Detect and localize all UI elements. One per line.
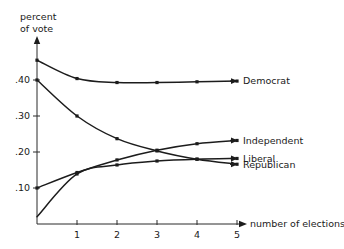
x-axis: 12345 [37,220,247,240]
series-callout-independent: Independent [230,135,303,146]
series-label-republican: Republican [243,159,295,170]
series-democrat [35,59,238,85]
data-point-marker [75,77,78,80]
data-point-marker [195,142,198,145]
data-point-marker [35,78,38,81]
data-point-marker [155,149,158,152]
y-tick-label: .30 [15,110,30,121]
y-tick-label: .20 [15,146,30,157]
x-tick-label: 2 [114,229,120,240]
x-tick-label: 1 [74,229,80,240]
callout-arrow-icon [231,156,238,162]
vote-share-line-chart: .10.20.30.40 12345 percent of vote numbe… [0,0,344,249]
data-point-marker [75,172,78,175]
series-liberal [37,157,239,217]
callout-arrow-icon [231,138,238,144]
y-tick-label: .10 [15,182,30,193]
series-layer [35,59,238,217]
y-axis-title-line2: of vote [20,23,53,34]
series-label-layer: DemocratIndependentLiberalRepublican [230,75,303,169]
series-republican [35,78,238,165]
y-tick-label: .40 [15,74,30,85]
x-tick-label: 3 [154,229,160,240]
series-label-independent: Independent [243,135,303,146]
series-label-democrat: Democrat [243,75,290,86]
data-point-marker [35,186,38,189]
x-axis-title: number of elections [250,218,344,229]
data-point-marker [75,114,78,117]
data-point-marker [195,158,198,161]
y-tick-group: .10.20.30.40 [15,74,40,193]
x-axis-arrow-icon [239,221,247,227]
data-point-marker [115,163,118,166]
y-axis-arrow-icon [34,36,40,44]
series-independent [35,139,238,190]
callout-arrow-icon [231,78,238,84]
x-tick-label: 5 [234,229,240,240]
data-point-marker [115,158,118,161]
series-callout-republican: Republican [230,159,295,170]
data-point-marker [155,159,158,162]
y-axis-title-line1: percent [20,11,57,22]
data-point-marker [195,80,198,83]
callout-arrow-icon [231,161,238,167]
chart-container: .10.20.30.40 12345 percent of vote numbe… [0,0,344,249]
series-callout-democrat: Democrat [230,75,290,86]
x-tick-group: 12345 [74,220,240,240]
series-line-republican [37,80,237,164]
data-point-marker [35,59,38,62]
series-line-independent [37,140,237,188]
x-tick-label: 4 [194,229,200,240]
data-point-marker [155,81,158,84]
y-axis: .10.20.30.40 [15,36,40,224]
series-line-democrat [37,60,237,83]
series-line-liberal [37,158,237,216]
data-point-marker [115,137,118,140]
data-point-marker [115,81,118,84]
